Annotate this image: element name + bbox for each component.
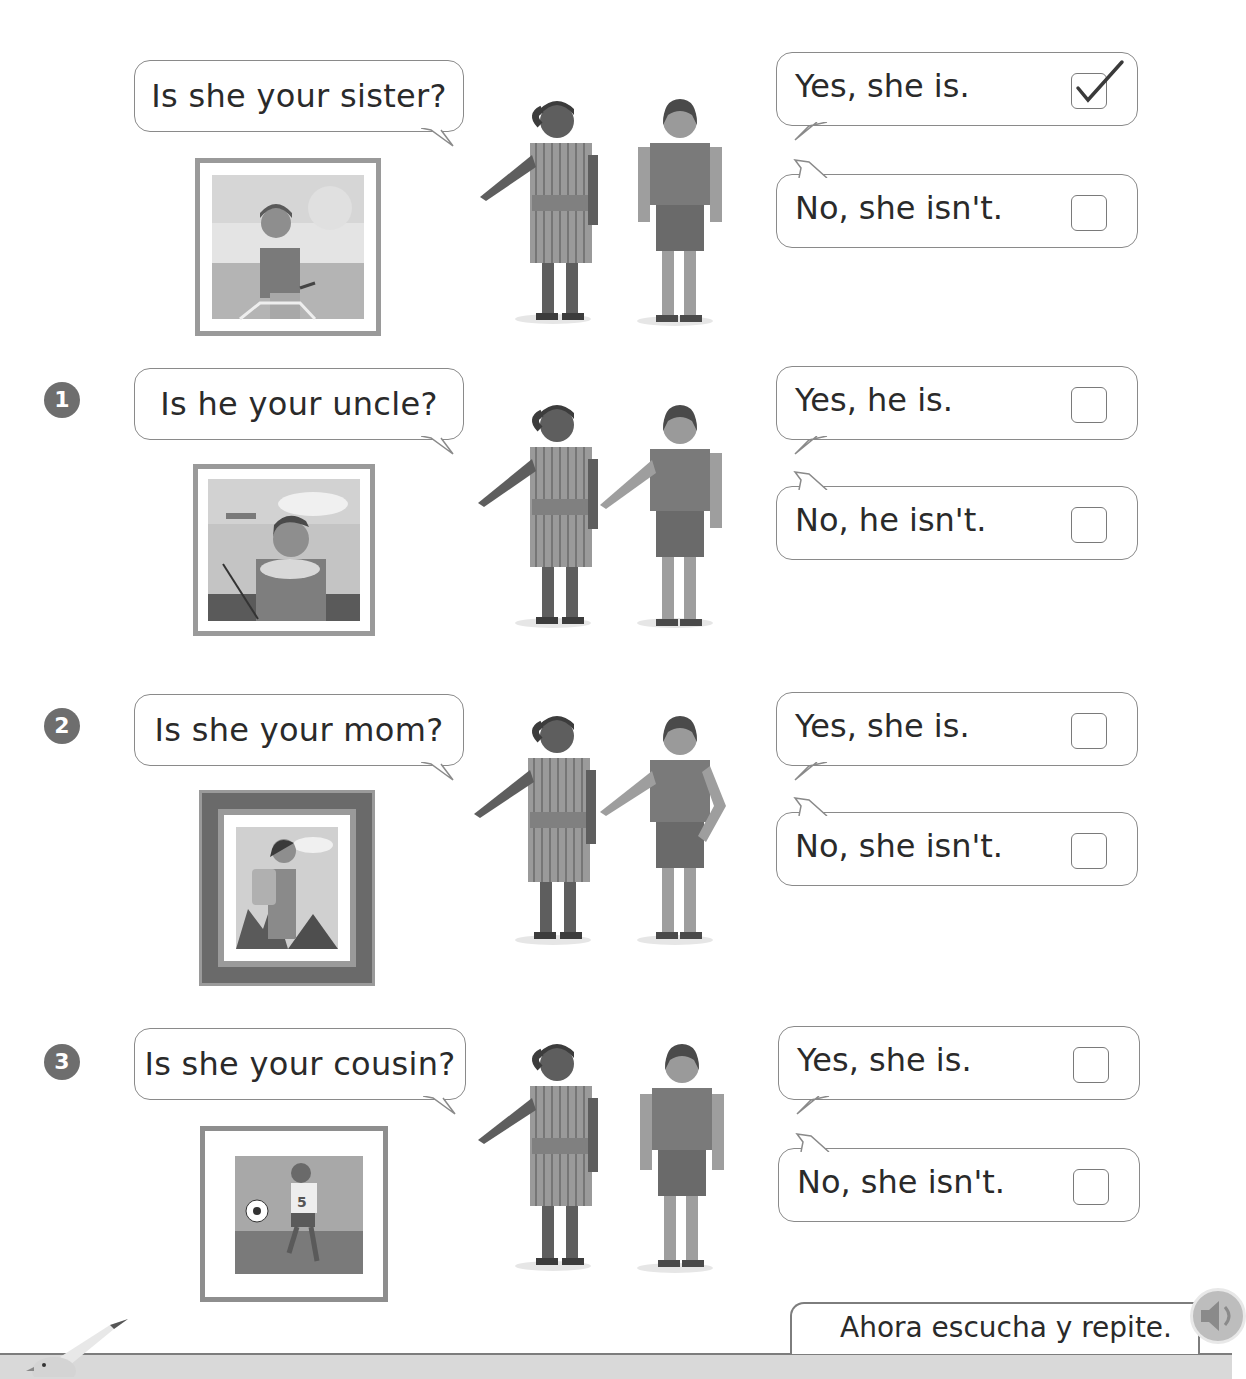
- answer-yes-text: Yes, she is.: [797, 1041, 972, 1079]
- answer-no-text: No, she isn't.: [795, 189, 1003, 227]
- answer-yes-bubble: Yes, she is.: [776, 52, 1138, 126]
- two-girls-illustration: [470, 405, 760, 645]
- answer-yes-checkbox[interactable]: [1073, 1047, 1109, 1083]
- answer-yes-bubble: Yes, she is.: [778, 1026, 1140, 1100]
- speech-tail-icon: [791, 796, 831, 816]
- answer-no-checkbox[interactable]: [1071, 507, 1107, 543]
- two-girls-illustration: [470, 95, 760, 335]
- speech-tail-icon: [793, 1096, 833, 1116]
- two-girls-illustration: [470, 1044, 760, 1284]
- boy-holding-fish-photo: [193, 464, 375, 636]
- instruction-banner: Ahora escucha y repite.: [790, 1302, 1200, 1354]
- exercise-3: 3 Is she your cousin? 5: [0, 968, 1232, 1288]
- question-text: Is she your sister?: [151, 77, 447, 115]
- answer-no-text: No, he isn't.: [795, 501, 986, 539]
- question-text: Is she your mom?: [155, 711, 444, 749]
- speaker-icon: [1193, 1291, 1243, 1341]
- answer-no-bubble: No, she isn't.: [776, 812, 1138, 886]
- answer-no-checkbox[interactable]: [1071, 195, 1107, 231]
- speech-tail-icon: [421, 436, 455, 456]
- answer-yes-bubble: Yes, he is.: [776, 366, 1138, 440]
- girl-playing-soccer-photo: 5: [200, 1126, 388, 1302]
- exercise-number-badge: 2: [44, 708, 80, 744]
- exercise-number-badge: 1: [44, 382, 80, 418]
- exercise-example: Is she your sister?: [0, 0, 1232, 320]
- answer-no-bubble: No, she isn't.: [778, 1148, 1140, 1222]
- answer-yes-bubble: Yes, she is.: [776, 692, 1138, 766]
- answer-no-text: No, she isn't.: [797, 1163, 1005, 1201]
- question-bubble: Is he your uncle?: [134, 368, 464, 440]
- answer-yes-checkbox[interactable]: [1071, 387, 1107, 423]
- answer-no-bubble: No, she isn't.: [776, 174, 1138, 248]
- question-bubble: Is she your cousin?: [134, 1028, 466, 1100]
- answer-yes-text: Yes, he is.: [795, 381, 953, 419]
- question-text: Is she your cousin?: [144, 1045, 455, 1083]
- speech-tail-icon: [791, 158, 831, 178]
- question-bubble: Is she your mom?: [134, 694, 464, 766]
- question-bubble: Is she your sister?: [134, 60, 464, 132]
- two-girls-illustration: [470, 716, 760, 956]
- answer-yes-checkbox[interactable]: [1071, 73, 1107, 109]
- audio-play-button[interactable]: [1190, 1288, 1246, 1344]
- speech-tail-icon: [791, 762, 831, 782]
- exercise-number-badge: 3: [44, 1044, 80, 1080]
- instruction-text: Ahora escucha y repite.: [840, 1311, 1172, 1344]
- seagull-icon: [10, 1315, 130, 1377]
- speech-tail-icon: [791, 436, 831, 456]
- exercise-1: 1 Is he your uncle?: [0, 310, 1232, 630]
- answer-no-text: No, she isn't.: [795, 827, 1003, 865]
- speech-tail-icon: [423, 1096, 457, 1116]
- question-text: Is he your uncle?: [160, 385, 437, 423]
- answer-yes-text: Yes, she is.: [795, 707, 970, 745]
- svg-text:5: 5: [297, 1194, 307, 1210]
- footer-bar: [0, 1353, 1232, 1379]
- answer-yes-checkbox[interactable]: [1071, 713, 1107, 749]
- speech-tail-icon: [793, 1132, 833, 1152]
- answer-yes-text: Yes, she is.: [795, 67, 970, 105]
- speech-tail-icon: [791, 470, 831, 490]
- answer-no-checkbox[interactable]: [1073, 1169, 1109, 1205]
- speech-tail-icon: [421, 128, 455, 148]
- exercise-2: 2 Is she your mom?: [0, 636, 1232, 956]
- answer-no-checkbox[interactable]: [1071, 833, 1107, 869]
- answer-no-bubble: No, he isn't.: [776, 486, 1138, 560]
- woman-hiking-photo: [202, 793, 372, 983]
- checkmark-icon: [1070, 58, 1126, 108]
- speech-tail-icon: [421, 762, 455, 782]
- speech-tail-icon: [791, 122, 831, 142]
